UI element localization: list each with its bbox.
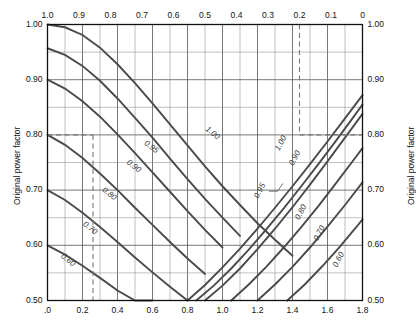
curve-label-asc-1.00: 1.00: [273, 134, 289, 152]
curve-label-desc-0.95: 0.95: [143, 138, 161, 155]
curve-asc-0.80: [231, 148, 362, 300]
curve-label-desc-0.60: 0.60: [59, 252, 77, 269]
curve-label-asc-0.70: 0.70: [312, 224, 328, 242]
plot-area: 1.000.950.900.800.700.601.000.950.900.80…: [0, 0, 416, 334]
power-factor-chart: Original power factor Original power fac…: [0, 0, 416, 334]
curve-label-asc-0.90: 0.90: [287, 149, 303, 167]
curve-label-desc-1.00: 1.00: [204, 125, 222, 142]
curve-label-desc-0.70: 0.70: [81, 220, 99, 237]
curve-label-asc-0.80: 0.80: [293, 203, 309, 221]
grid-lines: [48, 25, 363, 301]
